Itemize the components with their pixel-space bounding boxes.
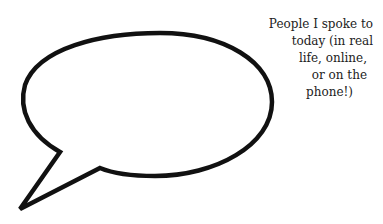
caption-line: today (in real bbox=[233, 33, 373, 50]
caption-line: life, online, bbox=[233, 50, 367, 67]
caption-line: or on the bbox=[233, 67, 367, 84]
caption-line: phone!) bbox=[233, 84, 353, 101]
caption-text: People I spoke to today (in real life, o… bbox=[233, 16, 373, 101]
caption-line: People I spoke to bbox=[233, 16, 373, 33]
